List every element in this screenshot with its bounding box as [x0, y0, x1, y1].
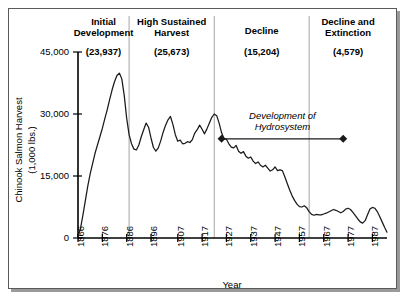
hydrosystem-arrow-marker-left — [218, 135, 226, 143]
x-tick-label: 1876 — [99, 226, 110, 247]
phase-mean-value: (4,579) — [333, 46, 363, 57]
y-tick-label: 45,000 — [40, 46, 69, 57]
harvest-series-line — [78, 73, 387, 237]
phase-mean-value: (23,937) — [86, 46, 121, 57]
chart-svg: 45,00030,00015,0000 18661876188618961907… — [0, 0, 407, 298]
x-tick-label: 1896 — [148, 226, 159, 247]
phase-title-line1: Decline and — [321, 16, 375, 27]
figure-container: 45,00030,00015,0000 18661876188618961907… — [0, 0, 407, 298]
x-tick-label: 1907 — [175, 226, 186, 247]
x-tick-label: 1987 — [369, 226, 380, 247]
y-tick-label: 15,000 — [40, 170, 69, 181]
x-tick-label: 1957 — [296, 226, 307, 247]
x-tick-label: 1947 — [272, 226, 283, 247]
phase-title-line1: Decline — [245, 25, 279, 36]
x-tick-label-group: 1866187618861896190719171927193719471957… — [75, 226, 380, 247]
x-tick-label: 1967 — [321, 226, 332, 247]
hydrosystem-arrow-marker-right — [339, 135, 347, 143]
hydrosystem-annotation-line1: Development of — [249, 110, 317, 121]
y-tick-label-group: 45,00030,00015,0000 — [40, 46, 69, 243]
y-tick-label: 0 — [64, 232, 69, 243]
phase-title-line2: Extinction — [325, 27, 371, 38]
y-axis-label-line2: (1,000 lbs.) — [26, 126, 37, 174]
phase-label-group: InitialDevelopment(23,937)High Sustained… — [74, 16, 375, 57]
x-tick-label: 1927 — [223, 226, 234, 247]
phase-mean-value: (15,204) — [244, 46, 279, 57]
hydrosystem-annotation: Development of Hydrosystem — [218, 110, 348, 143]
y-tick-label: 30,000 — [40, 108, 69, 119]
phase-title-line1: Initial — [91, 16, 116, 27]
x-tick-label: 1886 — [124, 226, 135, 247]
phase-mean-value: (25,673) — [154, 46, 189, 57]
phase-title-line1: High Sustained — [137, 16, 206, 27]
x-tick-label: 1917 — [199, 226, 210, 247]
x-axis-label: Year — [222, 279, 241, 290]
phase-title-line2: Development — [74, 27, 134, 38]
x-tick-label: 1977 — [345, 226, 356, 247]
phase-title-line2: Harvest — [154, 27, 190, 38]
x-tick-label: 1937 — [248, 226, 259, 247]
hydrosystem-annotation-line2: Hydrosystem — [255, 121, 311, 132]
y-axis-label-line1: Chinook Salmon Harvest — [13, 97, 24, 202]
axes-group — [78, 52, 387, 238]
